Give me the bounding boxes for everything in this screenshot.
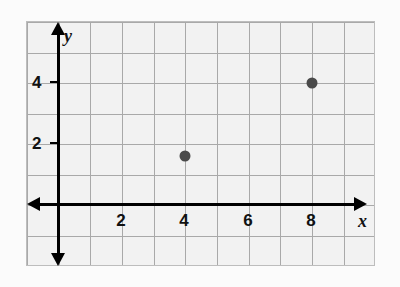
x-tick-label-8: 8	[306, 212, 315, 229]
x-axis-line	[40, 203, 362, 206]
gridline-horizontal	[27, 114, 374, 115]
data-point	[180, 151, 191, 162]
y-axis-down-arrow-icon	[51, 253, 65, 266]
y-tick-label-2: 2	[32, 135, 41, 152]
gridline-horizontal	[27, 175, 374, 176]
x-axis-label: x	[358, 212, 367, 230]
y-axis-up-arrow-icon	[51, 22, 65, 35]
y-tick-mark-2	[50, 142, 57, 144]
x-axis-left-arrow-icon	[27, 197, 40, 211]
y-tick-mark-4	[50, 81, 57, 83]
y-axis-line	[57, 34, 60, 256]
gridline-horizontal	[27, 53, 374, 54]
coordinate-plane-figure: 2 4 2 4 6 8 y x	[0, 0, 400, 287]
y-tick-label-4: 4	[32, 74, 41, 91]
gridline-horizontal	[27, 22, 374, 23]
gridline-horizontal	[27, 236, 374, 237]
x-tick-label-2: 2	[116, 212, 125, 229]
plot-area	[26, 21, 375, 266]
x-tick-label-6: 6	[243, 212, 252, 229]
x-axis-right-arrow-icon	[354, 197, 367, 211]
gridline-horizontal	[27, 83, 374, 84]
y-axis-label: y	[64, 27, 72, 45]
x-tick-label-4: 4	[179, 212, 188, 229]
gridline-horizontal	[27, 144, 374, 145]
data-point	[307, 78, 318, 89]
